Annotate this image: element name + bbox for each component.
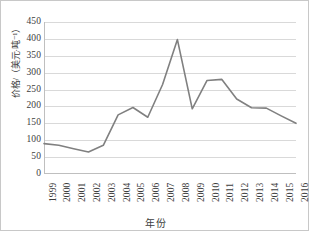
x-axis-tick-label: 2002 bbox=[93, 183, 103, 202]
x-axis-title: 年份 bbox=[1, 215, 310, 230]
x-axis-tick-label: 2011 bbox=[226, 183, 236, 202]
x-axis-tick-label: 2015 bbox=[286, 183, 296, 202]
x-axis-tick-label: 2006 bbox=[152, 183, 162, 202]
x-axis-tick-label: 2007 bbox=[167, 183, 177, 202]
plot-area bbox=[44, 22, 296, 174]
x-axis-tick-label: 2016 bbox=[301, 183, 311, 202]
x-axis-tick-label: 2000 bbox=[63, 183, 73, 202]
y-axis-tick-label: 150 bbox=[3, 119, 41, 129]
x-axis-tick-label: 2003 bbox=[108, 183, 118, 202]
x-axis-tick-label: 2014 bbox=[271, 183, 281, 202]
y-axis-tick-label: 50 bbox=[3, 152, 41, 162]
x-axis-tick-label: 2009 bbox=[197, 183, 207, 202]
series-line-chart bbox=[44, 22, 296, 174]
x-axis-tick-labels: 1999200020012002200320042005200620072008… bbox=[44, 176, 296, 214]
y-axis-tick-label: 0 bbox=[3, 169, 41, 179]
x-axis-tick-label: 2010 bbox=[212, 183, 222, 202]
x-axis-tick-label: 2013 bbox=[256, 183, 266, 202]
y-axis-tick-label: 100 bbox=[3, 135, 41, 145]
series-polyline bbox=[44, 40, 296, 152]
x-axis-tick-label: 2001 bbox=[78, 183, 88, 202]
chart-figure: 450400350300250200150100500 价格/（美元·吨⁻¹） … bbox=[0, 0, 309, 231]
x-axis-tick-label: 2005 bbox=[137, 183, 147, 202]
y-axis-title: 价格/（美元·吨⁻¹） bbox=[9, 24, 22, 98]
x-axis-tick-label: 2004 bbox=[123, 183, 133, 202]
x-axis-tick-label: 2008 bbox=[182, 183, 192, 202]
x-axis-tick-label: 1999 bbox=[49, 183, 59, 202]
x-axis-tick-label: 2012 bbox=[241, 183, 251, 202]
y-axis-tick-label: 200 bbox=[3, 102, 41, 112]
